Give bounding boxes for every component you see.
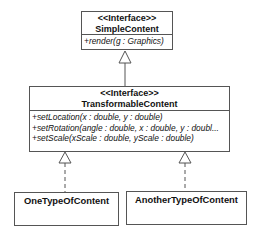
class-one-type-of-content[interactable]: OneTypeOfContent <box>14 192 119 226</box>
generalization-arrow-icon <box>119 51 131 63</box>
stereotype-label: <<Interface>> <box>30 88 229 99</box>
class-name: AnotherTypeOfContent <box>127 192 246 205</box>
operation: +setRotation(angle : double, x : double,… <box>32 123 227 134</box>
realization-arrow-icon <box>59 152 71 163</box>
stereotype-label: <<Interface>> <box>82 13 172 24</box>
class-name: OneTypeOfContent <box>15 193 118 206</box>
operation: +setLocation(x : double, y : double) <box>32 112 227 123</box>
class-name: SimpleContent <box>82 24 172 35</box>
class-name: TransformableContent <box>30 99 229 110</box>
operation: +render(g : Graphics) <box>84 36 170 47</box>
realization-arrow-icon <box>179 152 191 163</box>
class-transformable-content[interactable]: <<Interface>> TransformableContent +setL… <box>29 86 230 152</box>
class-another-type-of-content[interactable]: AnotherTypeOfContent <box>126 191 247 225</box>
operation: +setScale(xScale : double, yScale : doub… <box>32 133 227 144</box>
class-simple-content[interactable]: <<Interface>> SimpleContent +render(g : … <box>81 11 173 50</box>
